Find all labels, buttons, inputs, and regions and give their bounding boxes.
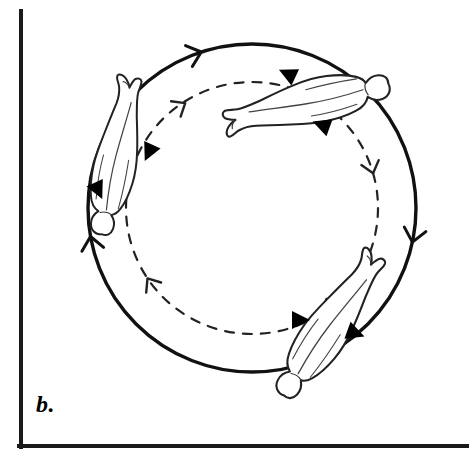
figure-horizontal-top	[219, 63, 394, 142]
marker-top-left-of-top-body	[275, 62, 299, 86]
axis-frame	[19, 11, 469, 447]
figure-diagonal-bottom-right	[264, 244, 397, 408]
panel-label: b.	[36, 392, 55, 416]
figure-headdown-left	[80, 73, 155, 239]
marker-right-of-left-body	[137, 141, 161, 165]
figure-canvas	[0, 0, 469, 462]
figure-panel: b.	[0, 0, 469, 462]
